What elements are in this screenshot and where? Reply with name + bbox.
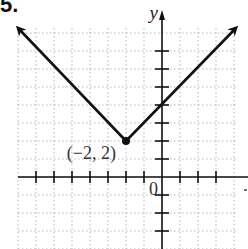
absolute-value-graph: (−2, 2)y0 [0, 0, 248, 249]
right-branch-line [126, 28, 236, 141]
graph-lines [18, 28, 236, 141]
vertex-label: (−2, 2) [67, 143, 116, 164]
axis-labels: (−2, 2)y0 [67, 2, 247, 199]
axes [18, 10, 248, 249]
vertex-point [122, 137, 130, 145]
graph-points [122, 137, 130, 145]
y-axis-arrow-icon [159, 10, 165, 20]
y-axis-label: y [148, 2, 159, 23]
origin-label: 0 [149, 179, 158, 199]
